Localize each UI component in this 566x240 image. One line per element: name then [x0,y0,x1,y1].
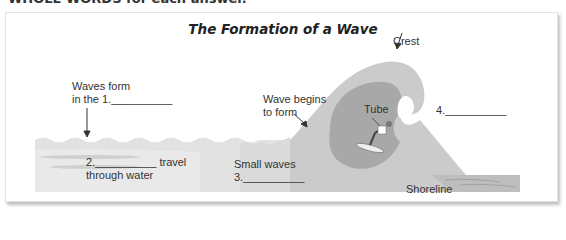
blank-2: 2.__________ travel [86,156,186,169]
label-shoreline: Shoreline [406,183,452,196]
label-crest: Crest [393,35,419,48]
label-through-water: through water [86,169,153,182]
label-to-form: to form [263,106,297,119]
blank-1: in the 1.__________ [72,93,172,106]
label-waves-form: Waves form [72,80,130,93]
label-small-waves: Small waves [234,158,296,171]
label-tube: Tube [364,103,389,116]
blank-3: 3.__________ [234,171,304,184]
label-wave-begins: Wave begins [263,93,326,106]
blank-4: 4.__________ [436,104,506,117]
